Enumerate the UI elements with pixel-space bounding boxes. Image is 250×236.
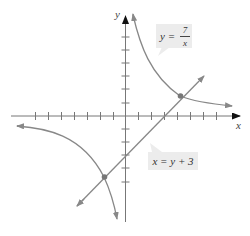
graph-canvas (0, 0, 250, 236)
intersection-point-1 (178, 93, 184, 99)
fraction-denominator: x (180, 38, 190, 48)
line-label-pointer (150, 143, 162, 152)
x-axis-label: x (236, 119, 241, 131)
hyperbola-label: y = 7 x (156, 24, 192, 48)
hyperbola-lower-branch (17, 126, 117, 219)
fraction: 7 x (180, 25, 190, 48)
fraction-bar (180, 36, 190, 37)
line-x-eq-y-plus-3 (77, 76, 204, 206)
y-axis (122, 16, 130, 222)
fraction-numerator: 7 (180, 25, 190, 35)
y-axis-label: y (115, 8, 120, 20)
hyperbola-label-pointer (158, 47, 170, 56)
intersection-point-2 (102, 174, 108, 180)
line-label: x = y + 3 (148, 152, 198, 170)
hyperbola-label-lhs: y = (160, 30, 175, 42)
